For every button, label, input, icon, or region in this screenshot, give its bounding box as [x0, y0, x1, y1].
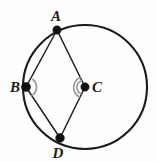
geometry-figure-canvas: A B C D [0, 0, 157, 162]
vertex-dot-a [53, 26, 61, 34]
segment-a-c [57, 30, 85, 87]
segment-b-d [26, 87, 60, 138]
point-label-d: D [52, 145, 64, 161]
vertex-dot-c [81, 83, 89, 91]
vertex-dot-b [21, 82, 30, 91]
point-label-b: B [9, 79, 20, 95]
point-label-a: A [50, 8, 61, 24]
angle-arc-at-b [32, 80, 36, 96]
segment-c-d [60, 87, 85, 138]
point-label-c: C [92, 79, 103, 95]
vertex-dot-d [56, 134, 65, 143]
circle-diagram-svg: A B C D [0, 0, 157, 162]
